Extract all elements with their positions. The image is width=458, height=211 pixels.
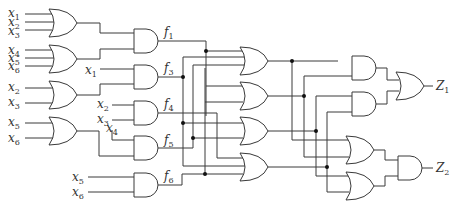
column3-or-gates bbox=[240, 47, 268, 181]
column4-input-wires bbox=[292, 76, 352, 192]
label-x3: x3 bbox=[8, 95, 20, 111]
logic-circuit-diagram: x1 x2 x3 x4 x5 x6 x2 x3 x5 x6 bbox=[0, 0, 458, 211]
outputs: Z1 Z2 bbox=[422, 79, 449, 177]
or-gate-x1x2x3 bbox=[49, 9, 77, 37]
or-gate-x5x6 bbox=[49, 117, 77, 145]
label-f4: f4 bbox=[163, 97, 174, 113]
label-f6: f6 bbox=[163, 169, 174, 185]
output-stage-wires bbox=[374, 68, 399, 186]
label-x5: x5 bbox=[8, 115, 20, 131]
and-gate-f6 bbox=[134, 173, 158, 197]
and-gate-f5 bbox=[134, 136, 158, 160]
junction-dot bbox=[181, 121, 185, 125]
junction-dot bbox=[290, 59, 294, 63]
function-labels: f1 f3 f4 f5 f6 bbox=[163, 25, 174, 185]
column3-output-buses bbox=[268, 61, 338, 192]
or-gate-col4-3 bbox=[346, 136, 374, 164]
and-gate-f1 bbox=[134, 29, 158, 53]
or-gate-col3-2 bbox=[240, 82, 268, 110]
or-gate-col3-1 bbox=[240, 47, 268, 75]
junction-dot bbox=[325, 165, 329, 169]
label-x1-f3: x1 bbox=[85, 63, 97, 79]
column2-and-gates bbox=[134, 29, 158, 197]
or-gate-col3-3 bbox=[240, 117, 268, 145]
label-x2: x2 bbox=[8, 80, 20, 96]
junction-dot bbox=[203, 172, 207, 176]
label-z2: Z2 bbox=[435, 161, 449, 177]
junction-dot bbox=[191, 136, 195, 140]
label-x2-f4: x2 bbox=[97, 97, 109, 113]
or-gate-z1 bbox=[396, 72, 424, 100]
or-gate-col4-4 bbox=[346, 172, 374, 200]
and-gate-z2 bbox=[398, 156, 422, 180]
junction-dot bbox=[204, 49, 208, 53]
junction-dot bbox=[181, 75, 185, 79]
junction-dot bbox=[314, 129, 318, 133]
label-z1: Z1 bbox=[435, 79, 449, 95]
and-gate-col4-1 bbox=[352, 56, 376, 80]
label-f3: f3 bbox=[163, 61, 174, 77]
or-gate-col3-4 bbox=[240, 153, 268, 181]
or-gate-x2x3 bbox=[49, 81, 77, 109]
label-x5-f6: x5 bbox=[72, 170, 84, 186]
column1-input-wires bbox=[25, 14, 54, 138]
output-gates bbox=[396, 72, 424, 180]
label-f5: f5 bbox=[163, 133, 174, 149]
and-gate-col4-2 bbox=[352, 92, 376, 116]
column1-output-wires bbox=[77, 23, 134, 156]
label-x6: x6 bbox=[8, 131, 20, 147]
junction-dot bbox=[302, 94, 306, 98]
or-gate-x4x5x6 bbox=[49, 45, 77, 73]
label-f1: f1 bbox=[163, 25, 174, 41]
and-gate-f4 bbox=[134, 101, 158, 125]
column1-or-gates bbox=[49, 9, 77, 145]
column4-gates bbox=[346, 56, 376, 200]
and-gate-f3 bbox=[134, 65, 158, 89]
label-x6-f6: x6 bbox=[72, 185, 84, 201]
input-labels-column1: x1 x2 x3 x4 x5 x6 x2 x3 x5 x6 bbox=[8, 6, 20, 147]
